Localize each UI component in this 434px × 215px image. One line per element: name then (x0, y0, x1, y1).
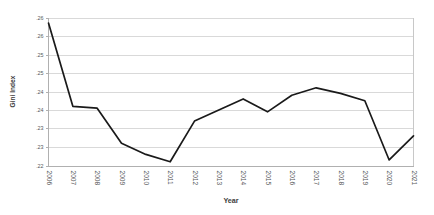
y-axis-title: Gini Index (9, 75, 16, 107)
x-tick-label-2012: 2012 (192, 171, 199, 186)
x-axis-tick-labels: 2006200720082009201020112012201320142015… (46, 171, 418, 186)
y-tick-label-4: .24 (36, 89, 44, 95)
x-tick-label-2010: 2010 (143, 171, 150, 186)
gridlines-group (49, 19, 414, 167)
x-axis-title: Year (223, 196, 238, 205)
x-tick-label-2006: 2006 (46, 171, 53, 186)
x-tick-label-2013: 2013 (216, 171, 223, 186)
y-tick-label-5: .24 (36, 107, 44, 113)
y-tick-label-0: .26 (36, 15, 44, 21)
x-tick-label-2007: 2007 (70, 171, 77, 186)
x-tick-label-2009: 2009 (119, 171, 126, 186)
y-tick-label-7: .23 (36, 144, 44, 150)
x-tick-label-2016: 2016 (289, 171, 296, 186)
x-tick-label-2018: 2018 (338, 171, 345, 186)
y-tick-label-6: .23 (36, 125, 44, 131)
chart-canvas: .26.26.25.25.24.24.23.23.22 200620072008… (0, 0, 434, 215)
x-tick-label-2017: 2017 (313, 171, 320, 186)
gini-index-line-chart: .26.26.25.25.24.24.23.23.22 200620072008… (0, 0, 434, 215)
y-tick-label-1: .26 (36, 33, 44, 39)
y-tick-label-3: .25 (36, 70, 44, 76)
x-tick-label-2014: 2014 (240, 171, 247, 186)
x-tick-label-2021: 2021 (411, 171, 418, 186)
x-tick-label-2020: 2020 (386, 171, 393, 186)
x-tick-label-2011: 2011 (167, 171, 174, 186)
x-tick-label-2015: 2015 (265, 171, 272, 186)
y-tick-label-8: .22 (36, 163, 44, 169)
x-tick-label-2008: 2008 (94, 171, 101, 186)
y-axis-tick-labels: .26.26.25.25.24.24.23.23.22 (36, 15, 44, 169)
plot-frame (49, 18, 414, 167)
y-tick-label-2: .25 (36, 52, 44, 58)
x-tick-label-2019: 2019 (362, 171, 369, 186)
